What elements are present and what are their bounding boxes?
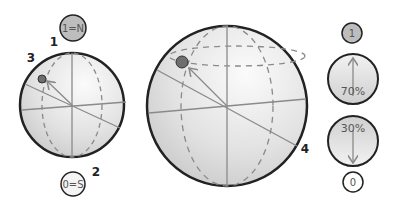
left-sphere xyxy=(20,53,126,157)
upper-probability-label: 70% xyxy=(341,85,365,98)
left-state-point xyxy=(38,75,46,83)
right-sphere xyxy=(147,26,307,186)
marker-2: 2 xyxy=(92,165,100,179)
south-pole-badge: 0=S xyxy=(61,172,85,196)
north-pole-label: 1=N xyxy=(62,23,84,34)
probability-panel: 1 70% 30% 0 xyxy=(328,23,378,192)
lower-probability-label: 30% xyxy=(341,122,365,135)
marker-1: 1 xyxy=(50,35,58,49)
state-one-badge: 1 xyxy=(342,23,362,43)
marker-4: 4 xyxy=(301,142,309,156)
marker-3: 3 xyxy=(27,51,35,65)
north-pole-badge: 1=N xyxy=(60,15,86,41)
state-zero-label: 0 xyxy=(350,177,356,188)
south-pole-label: 0=S xyxy=(62,179,83,190)
bloch-sphere-diagram: 1=N 0=S 1 3 2 4 1 70% xyxy=(0,0,397,206)
lower-probability-circle: 30% xyxy=(328,116,378,166)
upper-probability-circle: 70% xyxy=(328,54,378,104)
right-state-point xyxy=(176,56,188,68)
state-zero-badge: 0 xyxy=(343,172,363,192)
state-one-label: 1 xyxy=(349,28,355,39)
